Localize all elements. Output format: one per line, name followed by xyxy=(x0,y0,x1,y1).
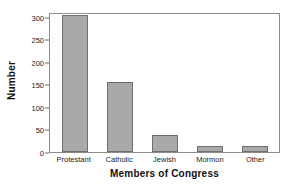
bar[interactable] xyxy=(107,82,133,152)
y-axis-tick-label: 100 xyxy=(31,103,44,112)
y-axis-tick-label: 150 xyxy=(31,81,44,90)
x-axis-tick-label: Mormon xyxy=(187,155,232,164)
x-axis-tick-labels: ProtestantCatholicJewishMormonOther xyxy=(49,155,280,164)
bar[interactable] xyxy=(197,146,223,152)
x-axis-tick-label: Catholic xyxy=(96,155,141,164)
x-axis-tick-label: Jewish xyxy=(142,155,187,164)
x-axis-title-label: Members of Congress xyxy=(49,168,280,179)
y-axis-title-label: Number xyxy=(6,61,17,100)
x-axis-tick-label: Protestant xyxy=(51,155,96,164)
bar-slot xyxy=(52,14,97,152)
x-axis-tick-label: Other xyxy=(233,155,278,164)
y-axis-tick-labels: 050100150200250300 xyxy=(18,10,44,158)
y-axis-tick-label: 50 xyxy=(36,126,44,135)
bar-slot xyxy=(187,14,232,152)
bar-slot xyxy=(97,14,142,152)
plot-area-frame xyxy=(49,13,280,153)
bar-slot xyxy=(232,14,277,152)
y-axis-tick-label: 200 xyxy=(31,58,44,67)
bars-container xyxy=(50,14,279,152)
y-axis-tick-label: 300 xyxy=(31,13,44,22)
bar[interactable] xyxy=(62,15,88,152)
bar[interactable] xyxy=(242,146,268,152)
bar-chart-figure: Number 050100150200250300 ProtestantCath… xyxy=(0,0,286,195)
bar-slot xyxy=(142,14,187,152)
y-axis-tick-label: 250 xyxy=(31,36,44,45)
bar[interactable] xyxy=(152,135,178,152)
